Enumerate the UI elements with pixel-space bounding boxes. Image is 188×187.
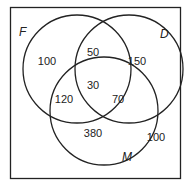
region-d-only: 150 <box>128 55 146 67</box>
region-outside: 100 <box>147 131 165 143</box>
set-label-m: M <box>122 150 132 164</box>
region-fm-only: 120 <box>55 93 73 105</box>
circle-f <box>23 15 131 123</box>
set-label-f: F <box>19 25 27 39</box>
region-fd-only: 50 <box>87 46 99 58</box>
region-dm-only: 70 <box>112 93 124 105</box>
region-f-only: 100 <box>38 55 56 67</box>
circle-m <box>50 57 158 165</box>
region-m-only: 380 <box>84 127 102 139</box>
region-fdm: 30 <box>87 79 99 91</box>
set-label-d: D <box>160 27 169 41</box>
venn-diagram: F D M 100 150 50 30 120 70 380 100 <box>0 0 188 187</box>
